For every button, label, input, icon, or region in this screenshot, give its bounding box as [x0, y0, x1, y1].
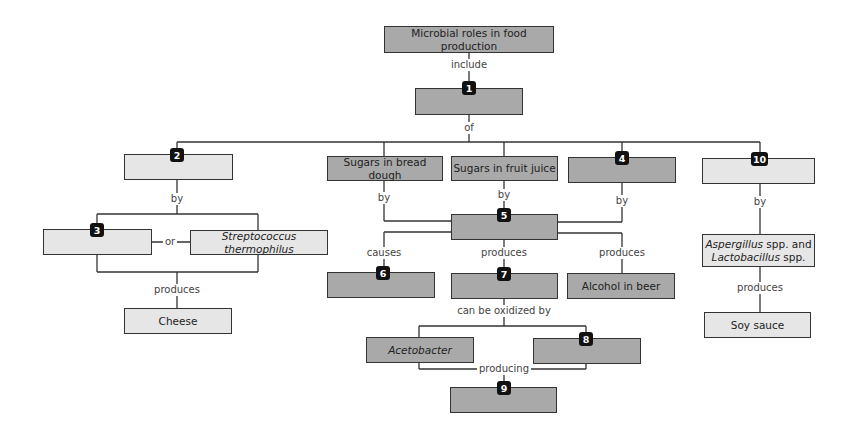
badge-1: 1	[462, 81, 476, 95]
edge-label-produces: produces	[479, 247, 529, 259]
edge-label-by: by	[169, 193, 185, 205]
edge-label-producing: producing	[477, 363, 531, 375]
node-root: Microbial roles in food production	[384, 26, 554, 53]
node-acetobacter: Acetobacter	[366, 337, 474, 363]
edge-label-produces: produces	[735, 282, 785, 294]
badge-3: 3	[90, 223, 104, 237]
node-label: Acetobacter	[388, 344, 452, 357]
badge-4: 4	[615, 151, 629, 165]
node-root-label: Microbial roles in food production	[385, 27, 553, 53]
node-label: Cheese	[159, 315, 198, 328]
edge-label-or: or	[163, 236, 177, 248]
node-label: Soy sauce	[731, 319, 784, 332]
node-label: Sugars in bread dough	[328, 156, 442, 182]
badge-2: 2	[170, 148, 184, 162]
concept-map: Microbial roles in food production inclu…	[0, 0, 856, 441]
node-aspergillus-lactobacillus: Aspergillus spp. and Lactobacillus spp.	[702, 234, 815, 267]
node-label: Sugars in fruit juice	[453, 162, 555, 175]
node-label-line1: Aspergillus spp. and	[705, 238, 811, 251]
badge-8: 8	[579, 332, 593, 346]
badge-6: 6	[376, 266, 390, 280]
node-soy-sauce: Soy sauce	[704, 312, 811, 338]
edge-label-include: include	[449, 59, 489, 71]
edge-label-by: by	[614, 195, 630, 207]
badge-7: 7	[497, 267, 511, 281]
node-cheese: Cheese	[124, 308, 232, 334]
node-label: Alcohol in beer	[582, 280, 660, 293]
badge-5: 5	[497, 208, 511, 222]
edge-label-produces: produces	[152, 284, 202, 296]
edge-label-can-be-oxidized-by: can be oxidized by	[455, 305, 553, 317]
connector-lines	[0, 0, 856, 441]
node-sugars-fruit-juice: Sugars in fruit juice	[451, 156, 558, 181]
edge-label-by: by	[376, 192, 392, 204]
node-label-line2: Lactobacillus spp.	[712, 251, 806, 264]
node-label: Streptococcus thermophilus	[191, 230, 327, 256]
badge-10: 10	[751, 152, 768, 166]
edge-label-by: by	[752, 196, 768, 208]
node-streptococcus-thermophilus: Streptococcus thermophilus	[190, 230, 328, 255]
node-alcohol-in-beer: Alcohol in beer	[567, 273, 675, 299]
edge-label-causes: causes	[365, 247, 404, 259]
edge-label-by: by	[496, 189, 512, 201]
node-sugars-bread-dough: Sugars in bread dough	[327, 156, 443, 181]
badge-9: 9	[497, 381, 511, 395]
edge-label-produces: produces	[597, 247, 647, 259]
edge-label-of: of	[462, 122, 476, 134]
